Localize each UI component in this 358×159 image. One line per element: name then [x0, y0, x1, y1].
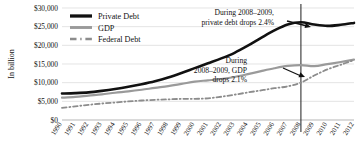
y-axis-title-text: In billion: [7, 49, 16, 79]
x-tick-label: 2006: [262, 120, 276, 137]
y-axis-title: In billion: [7, 49, 16, 79]
x-tick-label: 2001: [195, 120, 209, 137]
x-tick-label: 2004: [235, 120, 249, 137]
legend-label-gdp: GDP: [98, 24, 115, 33]
x-tick-label: 1996: [129, 120, 143, 137]
annotation-line: drops 2.1%: [212, 75, 247, 84]
y-tick-label: $15,000: [34, 60, 58, 69]
x-tick-label: 1995: [116, 120, 130, 137]
y-tick-label: $30,000: [34, 4, 58, 13]
annotation-line: During 2008–2009,: [215, 8, 275, 17]
legend-label-federal-debt: Federal Debt: [98, 35, 141, 44]
x-tick-label: 1994: [103, 120, 117, 137]
chart-canvas: $0$5,000$10,000$15,000$20,000$25,000$30,…: [0, 0, 358, 159]
annotation-line: 2008–2009, GDP: [194, 66, 247, 75]
debt-gdp-line-chart: $0$5,000$10,000$15,000$20,000$25,000$30,…: [0, 0, 358, 159]
x-tick-label: 1992: [76, 120, 90, 137]
x-tick-label: 2010: [315, 120, 329, 137]
legend-label-private-debt: Private Debt: [98, 12, 140, 21]
y-tick-label: $25,000: [34, 22, 58, 31]
x-tick-label: 2011: [328, 120, 342, 136]
y-tick-label: $5,000: [38, 97, 59, 106]
x-tick-label: 2012: [341, 120, 355, 137]
annotation-line: During: [225, 56, 247, 65]
x-tick-label: 2009: [302, 120, 316, 137]
y-axis-tick-labels: $0$5,000$10,000$15,000$20,000$25,000$30,…: [34, 4, 58, 125]
x-tick-label: 1997: [142, 120, 156, 137]
x-tick-label: 2007: [275, 120, 289, 137]
x-axis-tick-labels: 1990199119921993199419951996199719981999…: [49, 120, 355, 137]
x-tick-label: 2003: [222, 120, 236, 137]
x-tick-label: 1998: [156, 120, 170, 137]
x-tick-label: 2000: [182, 120, 196, 137]
x-tick-label: 1999: [169, 120, 183, 137]
annotation-line: private debt drops 2.4%: [201, 18, 274, 27]
y-tick-label: $10,000: [34, 78, 58, 87]
x-tick-label: 1993: [89, 120, 103, 137]
y-tick-label: $20,000: [34, 41, 58, 50]
x-tick-label: 2005: [249, 120, 263, 137]
x-tick-label: 1991: [63, 120, 77, 137]
x-tick-label: 2002: [209, 120, 223, 137]
